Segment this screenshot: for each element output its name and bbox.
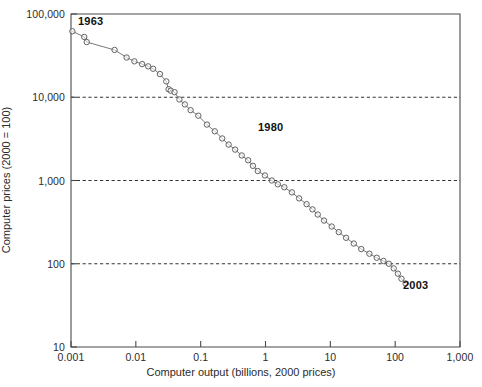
x-axis-tick-label: 1,000 [447,351,474,363]
annotation-mid-year: 1980 [258,121,283,133]
y-axis-tick-label: 100 [47,258,65,270]
y-axis-ticks [71,14,77,347]
y-axis-title: Computer prices (2000 = 100) [0,107,12,253]
y-axis-tick-label: 100,000 [26,8,65,20]
annotation-start-year: 1963 [78,15,103,27]
y-axis-tick-label: 1,000 [38,175,65,187]
x-axis-tick-label: 1 [263,351,269,363]
chart-plot-area [0,0,482,387]
x-axis-tick-label: 0.1 [193,351,208,363]
x-axis-title: Computer output (billions, 2000 prices) [147,366,336,378]
annotation-end-year: 2003 [403,279,428,291]
x-axis-tick-label: 0.001 [58,351,85,363]
x-axis-tick-label: 0.01 [125,351,146,363]
data-series-markers [70,29,409,287]
x-axis-tick-label: 10 [324,351,336,363]
chart-figure: 101001,00010,000100,000 0.0010.010.11101… [0,0,482,387]
x-axis-tick-label: 100 [386,351,404,363]
x-axis-ticks [71,341,460,347]
y-axis-tick-label: 10,000 [32,91,65,103]
